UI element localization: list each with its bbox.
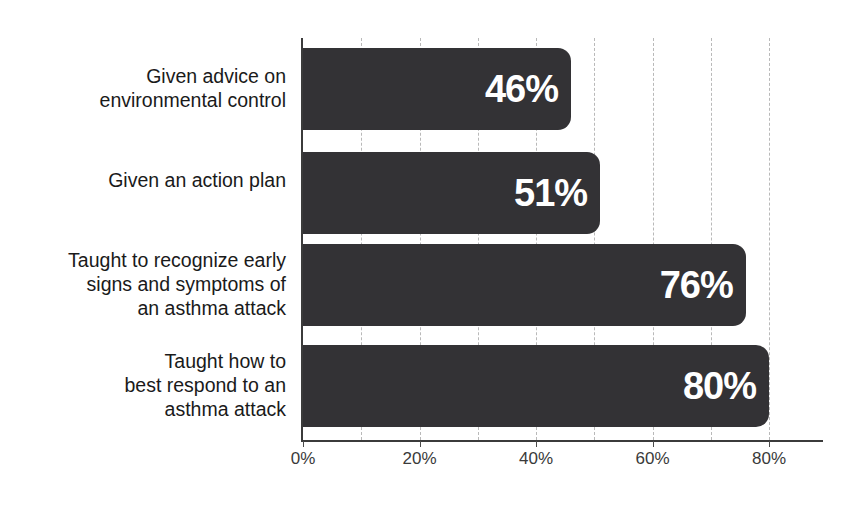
category-label-given-an-action-plan: Given an action plan	[0, 168, 286, 192]
x-tick-80	[769, 441, 770, 447]
y-axis-line	[301, 38, 303, 442]
x-tick-label-0: 0%	[263, 449, 343, 469]
bar-value-label: 46%	[485, 70, 558, 108]
x-tick-20	[420, 441, 421, 447]
gridline-80	[769, 38, 770, 440]
x-tick-40	[536, 441, 537, 447]
bar-taught-how-to-best-respond[interactable]: 80%	[303, 345, 769, 427]
x-tick-label-60: 60%	[613, 449, 693, 469]
bar-taught-to-recognize-early-signs[interactable]: 76%	[303, 244, 746, 326]
x-tick-label-20: 20%	[380, 449, 460, 469]
x-tick-label-80: 80%	[729, 449, 809, 469]
bar-value-label: 76%	[660, 266, 733, 304]
x-tick-60	[653, 441, 654, 447]
bar-value-label: 80%	[683, 367, 756, 405]
x-tick-label-40: 40%	[496, 449, 576, 469]
category-label-taught-to-recognize-early-signs: Taught to recognize early signs and symp…	[0, 248, 286, 320]
x-axis-line	[301, 440, 823, 442]
bar-value-label: 51%	[514, 174, 587, 212]
bar-chart: 46% 51% 76% 80% 0% 20% 40% 60% 80% Gi	[0, 0, 856, 505]
bar-given-an-action-plan[interactable]: 51%	[303, 152, 600, 234]
category-label-given-advice-on-environmental-control: Given advice on environmental control	[0, 64, 286, 112]
bar-given-advice-on-environmental-control[interactable]: 46%	[303, 48, 571, 130]
plot-area: 46% 51% 76% 80%	[303, 38, 823, 440]
x-tick-0	[303, 441, 304, 447]
category-label-taught-how-to-best-respond: Taught how to best respond to an asthma …	[0, 349, 286, 421]
